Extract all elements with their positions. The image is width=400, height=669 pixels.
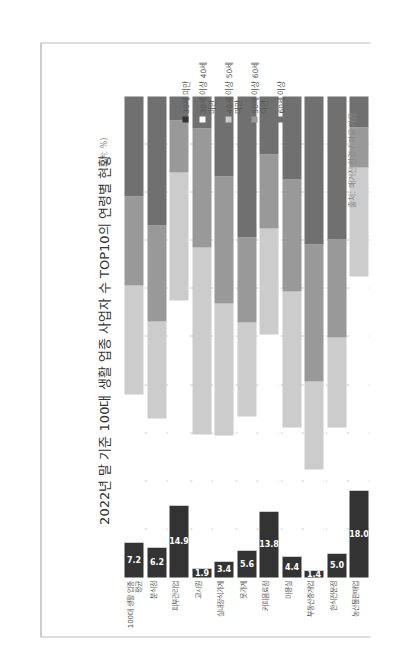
bar-segment [304,244,323,381]
bar-row: 5.0 [327,96,346,577]
category-label: 고시원 [194,580,202,635]
category-label: 한식전문점 [329,580,337,635]
bar-segment [124,96,143,196]
plot-area: 7.2100대 생활 업종 평균6.2분식점14.9피부관리업1.9고시원3.4… [124,96,369,577]
bar-segment [259,154,278,228]
bar-segment [124,196,143,285]
bar-segment [259,334,278,511]
bar-segment [214,303,233,435]
bar-segment [237,416,256,550]
category-label: 커피음료점 [261,580,269,635]
bar-segment [327,96,346,239]
legend-swatch-icon [251,116,257,122]
legend-swatch-icon [277,116,283,122]
bar-segment [327,337,346,427]
bar-segment [192,434,211,568]
bar-segment [259,228,278,334]
bar-segment: 14.9 [169,505,188,577]
value-label: 14.9 [169,537,188,546]
legend-swatch-icon [182,116,188,122]
bar-segment [237,237,256,322]
category-label: 미용실 [284,580,292,635]
bar-segment [192,247,211,434]
bar-segment [147,418,166,547]
value-label: 18.0 [349,529,368,538]
bar-row: 3.4 [214,96,233,577]
bar-segment: 5.0 [327,553,346,577]
bar-segment: 6.2 [147,547,166,577]
bar-segment [327,239,346,337]
bar-row: 6.2 [147,96,166,577]
bar-segment [147,321,166,418]
legend-label: 60세 이상 [276,80,285,113]
bar-segment [147,225,166,321]
legend-label: 30세 이상 40세 미만 [198,52,216,113]
legend-label: 30세 미만 [181,80,190,113]
bar-segment [124,285,143,394]
bar-segment: 5.6 [237,550,256,577]
chart-title: 2022년 말 기준 100대 생활 업종 사업자 수 TOP10의 연령별 현… [93,42,112,637]
bar-segment [349,276,368,491]
bar-segment [169,300,188,505]
value-label: 5.6 [239,559,253,568]
bar-row: 14.9 [169,96,188,577]
legend-item: 30세 이상 40세 미만 [198,52,216,122]
bar-row: 1.4 [304,96,323,577]
bar-segment [304,96,323,244]
value-label: 1.9 [194,568,208,577]
bar-segment: 18.0 [349,490,368,577]
bar-row: 4.4 [282,96,301,577]
category-label: 부동산중개업 [306,580,314,635]
category-label: 옷가게 [239,580,247,635]
bar-segment [169,120,188,172]
bar-segment: 7.2 [124,542,143,577]
unit-label: (단위: %) [97,137,108,170]
value-label: 13.8 [259,539,278,548]
bar-segment [147,96,166,225]
source-note: 출처: 매거진 한경 / 자료 가공 [345,112,356,207]
category-label: 피부관리업 [171,580,179,635]
bar-segment: 1.4 [304,570,323,577]
legend-item: 60세 이상 [276,52,285,122]
bar-segment [214,176,233,303]
value-label: 6.2 [149,558,163,567]
bar-segment [192,128,211,247]
bar-segment [169,172,188,300]
value-label: 7.2 [126,555,140,564]
value-label: 1.4 [306,570,320,577]
bar-row: 1.9 [192,96,211,577]
bar-row: 5.6 [237,96,256,577]
value-label: 5.0 [329,560,343,569]
category-label: 분식점 [149,580,157,635]
value-label: 4.4 [284,562,298,571]
bar-segment: 4.4 [282,556,301,577]
bar-segment: 1.9 [192,568,211,577]
category-label: 실내장식가게 [216,580,224,635]
legend-label: 50세 이상 60세 미만 [250,52,268,113]
bar-segment [304,469,323,570]
bar-segment: 13.8 [259,511,278,577]
value-label: 3.4 [216,564,230,573]
legend: 30세 미만30세 이상 40세 미만40세 이상 50세 미만50세 이상 6… [181,52,293,122]
category-label: 농산물판매업 [351,580,359,635]
bar-segment [327,427,346,553]
category-label: 100대 생활 업종 평균 [126,580,142,635]
legend-item: 50세 이상 60세 미만 [250,52,268,122]
rotated-chart-container: 2022년 말 기준 100대 생활 업종 사업자 수 TOP10의 연령별 현… [40,42,370,637]
bar-segment [282,291,301,427]
bar-segment: 3.4 [214,561,233,577]
bar-segment [304,381,323,469]
legend-swatch-icon [199,116,205,122]
bar-segment [214,435,233,561]
legend-item: 40세 이상 50세 미만 [224,52,242,122]
bar-segment [237,322,256,416]
legend-item: 30세 미만 [181,52,190,122]
legend-swatch-icon [225,116,231,122]
legend-label: 40세 이상 50세 미만 [224,52,242,113]
bar-segment [124,394,143,542]
bar-row: 7.2 [124,96,143,577]
bar-segment [282,427,301,556]
bar-row: 13.8 [259,96,278,577]
bar-segment [282,179,301,291]
